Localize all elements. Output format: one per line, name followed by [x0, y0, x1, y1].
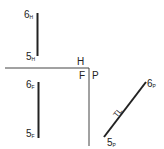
point-5f-label: 5F [26, 128, 35, 139]
point-6p-label: 6P [147, 78, 157, 89]
orthographic-projection-diagram: H F P 6H 5H 6F 5F 6P 5P TL [0, 0, 164, 149]
line-5-6-profile-view-true-length [104, 82, 146, 137]
true-length-annotation: TL [111, 106, 124, 119]
point-5h-label: 5H [26, 51, 36, 62]
point-6f-label: 6F [26, 79, 35, 90]
view-label-f: F [79, 70, 85, 81]
view-label-h: H [77, 56, 84, 67]
point-5p-label: 5P [107, 137, 117, 148]
view-label-p: P [92, 70, 99, 81]
point-6h-label: 6H [24, 9, 34, 20]
